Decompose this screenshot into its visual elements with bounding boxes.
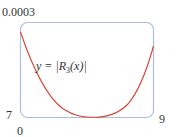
chart-plot-area <box>0 0 177 137</box>
x-min-tick-label: 7 <box>6 109 12 121</box>
curve-equation-label: y = |R3(x)| <box>36 59 87 75</box>
x-max-tick-label: 9 <box>159 113 165 125</box>
y-min-tick-label: 0 <box>17 125 23 137</box>
equation-prefix: y = |R <box>36 59 66 73</box>
equation-suffix: (x)| <box>70 59 87 73</box>
y-max-tick-label: 0.0003 <box>2 6 35 18</box>
